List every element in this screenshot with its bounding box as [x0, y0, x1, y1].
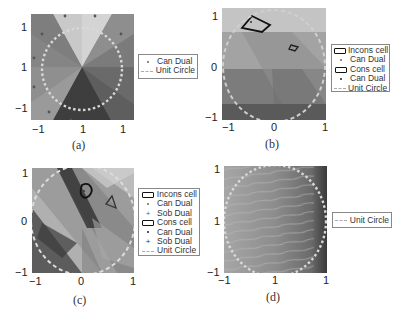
- cell-outline-icon: [141, 220, 155, 226]
- plot-c-caption: (c): [73, 293, 86, 308]
- plot-a-ytick-2: 1: [21, 62, 27, 73]
- plot-c-area: [32, 168, 134, 273]
- plot-d-graphic: [224, 166, 327, 273]
- plot-a-xtick-2: 1: [80, 124, 86, 135]
- plot-c-xtick-2: 0: [78, 276, 84, 287]
- plus-marker-icon: +: [141, 210, 155, 218]
- plot-a-caption: (a): [72, 138, 85, 153]
- dot-marker-icon: [141, 203, 155, 205]
- dashed-line-icon: [334, 88, 346, 89]
- plot-a-legend: Can Dual Unit Circle: [138, 54, 198, 79]
- plot-d-caption: (d): [266, 290, 280, 305]
- dot-marker-icon: [141, 61, 155, 63]
- plot-d-xtick-2: 1: [272, 275, 278, 286]
- cell-outline-icon: [334, 48, 346, 54]
- dot-marker-icon: [334, 59, 348, 61]
- plot-b-graphic: [222, 8, 326, 120]
- plot-a-xtick-1: −1: [32, 124, 45, 135]
- plot-b-ytick-3: −1: [205, 112, 218, 123]
- plot-c-xtick-1: −1: [29, 276, 42, 287]
- plot-a-ytick-1: 1: [21, 22, 27, 33]
- plot-c-graphic: [32, 168, 134, 273]
- cell-outline-icon: [141, 192, 155, 198]
- plot-b-ytick-2: 0: [211, 62, 217, 73]
- dashed-line-icon: [141, 251, 155, 252]
- plot-d-xtick-1: −1: [218, 275, 231, 286]
- plus-marker-icon: +: [141, 238, 155, 246]
- legend-item-unit-circle: Unit Circle: [335, 216, 389, 225]
- plot-b-legend: Incons cell Can Dual Cons cell Can Dual …: [331, 44, 390, 92]
- plot-a-area: [31, 14, 134, 120]
- plot-a-graphic: [31, 14, 134, 120]
- plot-b-area: [222, 8, 326, 120]
- cell-outline-icon: [334, 67, 348, 73]
- plot-d-legend: Unit Circle: [332, 212, 392, 228]
- plot-b-xtick-2: 0: [271, 122, 277, 133]
- plot-c-ytick-3: −1: [15, 267, 28, 278]
- plot-b-xtick-1: −1: [222, 122, 235, 133]
- legend-item-unit-circle: Unit Circle: [334, 84, 387, 93]
- plot-c-ytick-1: 1: [22, 168, 28, 179]
- plot-b-xtick-3: 1: [322, 122, 328, 133]
- legend-item-unit-circle: Unit Circle: [141, 246, 197, 255]
- plot-d-area: [224, 166, 327, 273]
- dashed-line-icon: [335, 220, 348, 221]
- plot-a-ytick-3: −1: [15, 103, 28, 114]
- plot-c-xtick-3: 1: [130, 276, 136, 287]
- plot-d-xtick-3: 1: [323, 275, 329, 286]
- plot-b-caption: (b): [265, 137, 279, 152]
- plot-c-legend: Incons cell Can Dual +Sob Dual Cons cell…: [138, 188, 200, 256]
- plot-b-ytick-1: 1: [212, 11, 218, 22]
- dashed-line-icon: [141, 71, 154, 72]
- plot-d-ytick-2: 1: [214, 216, 220, 227]
- legend-item-unit-circle: Unit Circle: [141, 66, 195, 75]
- plot-d-ytick-1: 1: [214, 164, 220, 175]
- dot-marker-icon: [141, 231, 155, 233]
- plot-a-xtick-3: 1: [120, 124, 126, 135]
- dot-marker-icon: [334, 78, 348, 80]
- plot-c-ytick-2: 0: [21, 216, 27, 227]
